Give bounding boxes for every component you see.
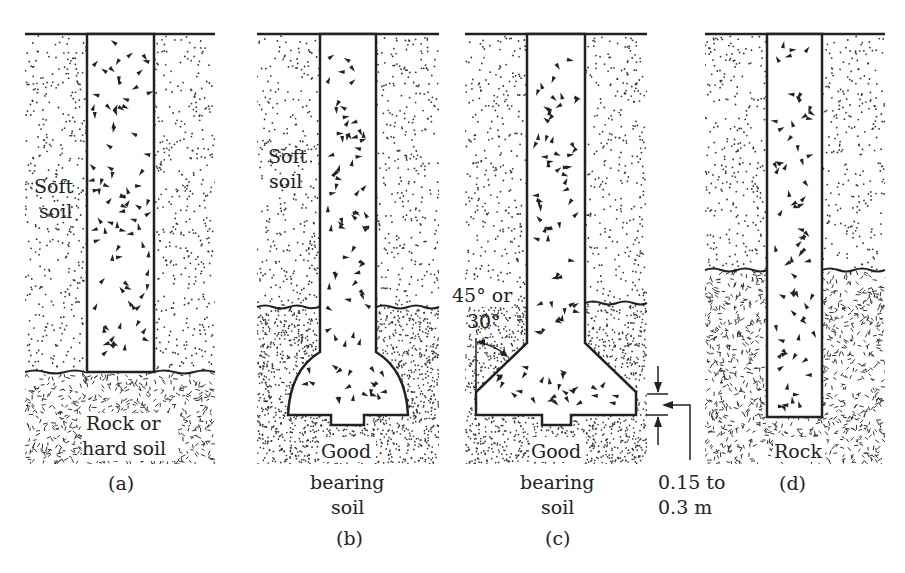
label-dimension-1: 0.15 to — [658, 471, 725, 493]
pier-belled — [288, 34, 408, 425]
label-soft-soil-b1: Soft — [268, 145, 307, 167]
label-good-soil-c1: Good — [531, 440, 581, 462]
label-good-soil-b1: Good — [321, 440, 371, 462]
panel-b — [257, 34, 439, 425]
pier-belled-angled — [476, 34, 636, 425]
label-angle-2: 30° — [467, 310, 501, 332]
pier-shaft — [87, 34, 154, 372]
label-good-soil-c3: soil — [541, 496, 574, 518]
caption-c: (c) — [545, 527, 570, 549]
arrowhead — [477, 339, 485, 346]
label-rock-a2: hard soil — [82, 437, 166, 459]
label-angle-1: 45° or — [452, 284, 513, 306]
caption-b: (b) — [336, 527, 363, 549]
label-dimension-2: 0.3 m — [658, 496, 712, 518]
arrowhead — [654, 416, 662, 427]
label-rock-d: Rock — [774, 440, 822, 462]
pier-shaft — [767, 34, 822, 417]
arrowhead — [654, 382, 662, 393]
caption-d: (d) — [779, 472, 806, 494]
drilled-shaft-diagram: Soft soil Rock or hard soil (a) Soft soi… — [0, 0, 905, 573]
dim-leader — [664, 405, 690, 460]
arrowhead — [662, 401, 673, 409]
label-good-soil-b3: soil — [331, 496, 364, 518]
panel-c — [465, 34, 690, 460]
label-good-soil-c2: bearing — [520, 471, 594, 493]
caption-a: (a) — [108, 472, 134, 494]
label-soft-soil-b2: soil — [269, 170, 302, 192]
label-soft-soil-a2: soil — [39, 200, 72, 222]
label-rock-a1: Rock or — [86, 412, 161, 434]
label-good-soil-b2: bearing — [310, 471, 384, 493]
label-soft-soil-a1: Soft — [34, 175, 73, 197]
